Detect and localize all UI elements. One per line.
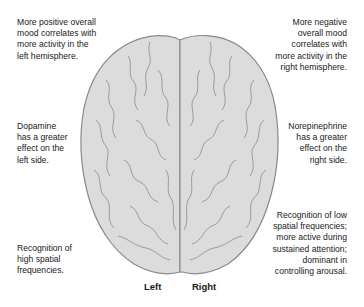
annotation-high-spatial-left: Recognition of high spatial frequencies. [17,243,72,277]
annotation-negative-mood-right: More negative overall mood correlates wi… [275,17,347,73]
annotation-dopamine-left: Dopamine has a greater effect on the lef… [17,121,68,166]
left-hemisphere-label: Left [144,281,161,292]
right-hemisphere [180,35,278,273]
right-hemisphere-label: Right [192,281,216,292]
annotation-norepinephrine-right: Norepinephrine has a greater effect on t… [288,121,347,166]
annotation-positive-mood-left: More positive overall mood correlates wi… [17,17,96,62]
annotation-low-spatial-right: Recognition of low spatial frequencies; … [272,210,347,277]
